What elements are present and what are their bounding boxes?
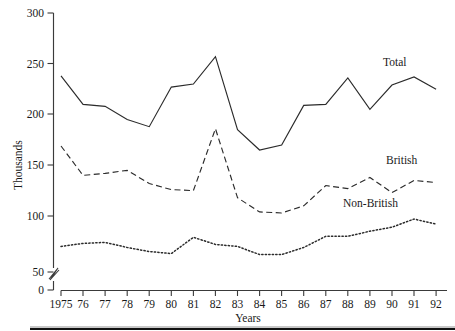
x-tick-label-81: 81 — [188, 298, 200, 310]
x-tick-label-1975: 1975 — [50, 298, 73, 310]
x-tick-label-90: 90 — [386, 298, 398, 310]
chart-container: 300 250 200 150 100 50 0 Thousands 1975 … — [0, 0, 455, 331]
x-tick-label-82: 82 — [210, 298, 222, 310]
series-line-total — [61, 57, 436, 150]
x-tick-label-92: 92 — [430, 298, 442, 310]
x-tick-label-76: 76 — [77, 298, 89, 310]
series-label-non-british: Non-British — [343, 197, 398, 209]
x-tick-label-85: 85 — [276, 298, 288, 310]
x-tick-label-77: 77 — [99, 298, 111, 310]
x-tick-label-86: 86 — [298, 298, 310, 310]
y-axis-break-icon — [49, 268, 59, 280]
y-tick-label-100: 100 — [27, 210, 45, 222]
x-tick-label-79: 79 — [143, 298, 155, 310]
x-tick-label-87: 87 — [320, 298, 332, 310]
series-label-total: Total — [383, 56, 406, 68]
y-tick-label-300: 300 — [27, 7, 45, 19]
series-line-non-british — [61, 219, 436, 255]
x-tick-label-83: 83 — [232, 298, 244, 310]
y-tick-label-250: 250 — [27, 58, 45, 70]
y-axis-title: Thousands — [12, 140, 24, 190]
y-tick-label-50: 50 — [33, 266, 45, 278]
series-label-british: British — [386, 154, 418, 166]
y-tick-label-150: 150 — [27, 159, 45, 171]
x-tick-label-78: 78 — [121, 298, 133, 310]
x-tick-label-91: 91 — [408, 298, 420, 310]
line-chart: 300 250 200 150 100 50 0 Thousands 1975 … — [0, 0, 455, 331]
x-axis-title: Years — [235, 312, 261, 324]
x-tick-label-80: 80 — [166, 298, 178, 310]
x-tick-label-89: 89 — [364, 298, 376, 310]
y-tick-label-0: 0 — [38, 284, 44, 296]
x-tick-label-84: 84 — [254, 298, 266, 310]
x-tick-label-88: 88 — [342, 298, 354, 310]
y-tick-label-200: 200 — [27, 108, 45, 120]
